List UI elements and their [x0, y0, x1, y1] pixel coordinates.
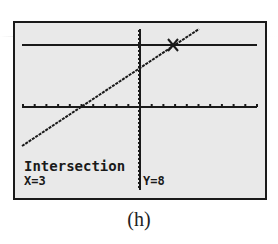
x-value-readout: X=3	[24, 175, 46, 187]
intersection-label: Intersection	[24, 159, 125, 173]
y-value-readout: Y=8	[143, 175, 165, 187]
y-axis	[138, 29, 140, 190]
figure-caption: (h)	[0, 208, 278, 231]
